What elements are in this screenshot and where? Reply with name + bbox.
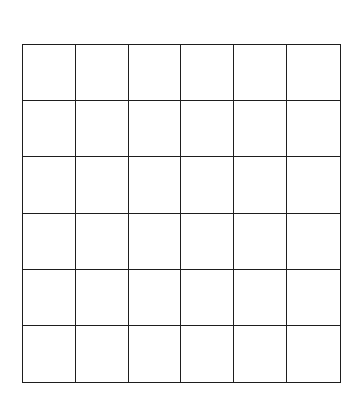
grid-cell bbox=[23, 326, 76, 382]
grid-cell bbox=[76, 45, 129, 101]
grid-cell bbox=[76, 326, 129, 382]
grid-cell bbox=[76, 214, 129, 270]
grid-cell bbox=[287, 45, 340, 101]
grid-cell bbox=[129, 101, 182, 157]
grid-cell bbox=[23, 270, 76, 326]
grid-cell bbox=[287, 101, 340, 157]
grid-cell bbox=[129, 326, 182, 382]
grid-cell bbox=[181, 270, 234, 326]
grid-cell bbox=[287, 214, 340, 270]
grid-cell bbox=[181, 157, 234, 213]
grid-cell bbox=[23, 101, 76, 157]
empty-grid bbox=[22, 44, 341, 383]
grid-cell bbox=[129, 45, 182, 101]
grid-cell bbox=[129, 157, 182, 213]
grid-cell bbox=[181, 45, 234, 101]
grid-cell bbox=[234, 326, 287, 382]
grid-cell bbox=[129, 214, 182, 270]
grid-cell bbox=[76, 157, 129, 213]
grid-cell bbox=[129, 270, 182, 326]
grid-cell bbox=[234, 214, 287, 270]
grid-cell bbox=[287, 270, 340, 326]
grid-cell bbox=[234, 45, 287, 101]
grid-cell bbox=[23, 214, 76, 270]
grid-cell bbox=[23, 45, 76, 101]
grid-cell bbox=[287, 326, 340, 382]
grid-cell bbox=[234, 270, 287, 326]
grid-cell bbox=[76, 270, 129, 326]
grid-cell bbox=[287, 157, 340, 213]
grid-cell bbox=[234, 157, 287, 213]
grid-cell bbox=[23, 157, 76, 213]
grid-cell bbox=[181, 101, 234, 157]
grid-cell bbox=[76, 101, 129, 157]
grid-cell bbox=[181, 326, 234, 382]
grid-cell bbox=[181, 214, 234, 270]
grid-cell bbox=[234, 101, 287, 157]
